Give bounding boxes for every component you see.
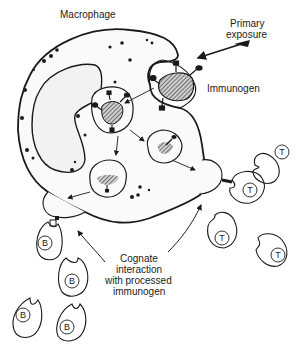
- b-cell-4: B: [57, 304, 86, 341]
- macrophage-diagram: T T T T B B B B: [0, 0, 304, 351]
- t-cell-2: T: [230, 171, 265, 203]
- svg-text:B: B: [69, 276, 75, 286]
- t-cell-4: T: [256, 234, 287, 267]
- primary-exposure-label-line2: exposure: [226, 29, 267, 40]
- svg-text:T: T: [279, 147, 285, 157]
- cognate-label-line2: interaction: [116, 264, 162, 275]
- svg-text:B: B: [64, 322, 70, 332]
- phagosome-2: [147, 130, 182, 163]
- svg-text:T: T: [247, 185, 253, 195]
- immunogen-label: Immunogen: [207, 83, 260, 94]
- b-cell-1: B: [37, 222, 62, 260]
- primary-exposure-label-line1: Primary: [230, 18, 264, 29]
- cognate-arrow-right: [168, 205, 201, 252]
- t-cell-1: T: [253, 145, 289, 183]
- cognate-label-line3: with processed: [105, 275, 172, 286]
- cognate-label-line4: immunogen: [113, 286, 165, 297]
- b-cell-3: B: [13, 298, 42, 338]
- svg-text:B: B: [42, 238, 48, 248]
- phagosome-3: [90, 160, 127, 197]
- phagosome-1: [92, 87, 134, 133]
- cognate-arrow-left: [78, 231, 105, 262]
- cognate-label-line1: Cognate: [120, 253, 158, 264]
- b-cell-2: B: [59, 258, 88, 296]
- svg-text:B: B: [20, 310, 26, 320]
- svg-text:T: T: [219, 233, 225, 243]
- t-cell-3: T: [208, 212, 237, 248]
- macrophage-label: Macrophage: [60, 9, 116, 20]
- presenting-bleb-right: [200, 160, 222, 194]
- svg-text:T: T: [275, 250, 281, 260]
